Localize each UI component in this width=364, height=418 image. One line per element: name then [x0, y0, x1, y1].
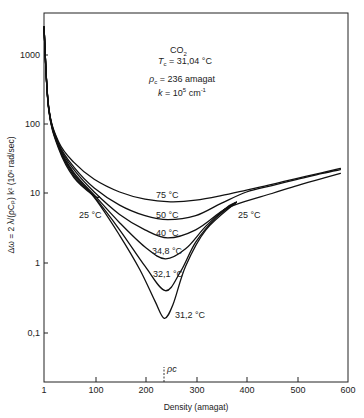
- curve-label-34-8: 34,8 °C: [152, 246, 183, 256]
- x-tick-label: 1: [41, 385, 46, 395]
- rhoc-label: ρc = 236 amagat: [148, 74, 215, 85]
- curve-32-1-c: [44, 27, 236, 291]
- curve-labels: 75 °C 50 °C 40 °C 34,8 °C 32,1 °C 31,2 °…: [79, 190, 261, 320]
- chart: 1000 100 10 1 0,1 1 100 200 300 400 500 …: [0, 0, 364, 418]
- curve-label-75: 75 °C: [156, 190, 179, 200]
- x-tick-label: 200: [138, 385, 153, 395]
- x-tick-label: 300: [189, 385, 204, 395]
- plot-frame: [44, 13, 348, 382]
- x-tick-label: 100: [88, 385, 103, 395]
- curve-label-32-1: 32,1 °C: [153, 269, 184, 279]
- x-axis-title: Density (amagat): [164, 402, 229, 412]
- x-tick-label: 400: [239, 385, 254, 395]
- curve-label-40: 40 °C: [156, 228, 179, 238]
- y-tick-label: 1: [35, 258, 40, 268]
- y-tick-label: 10: [30, 188, 40, 198]
- info-block: CO2 Tc = 31,04 °C ρc = 236 amagat k = 10…: [148, 45, 215, 98]
- curve-label-31-2: 31,2 °C: [175, 310, 206, 320]
- y-tick-label: 100: [25, 119, 40, 129]
- k-label: k = 105 cm-1: [158, 87, 207, 98]
- curve-label-25-left: 25 °C: [79, 210, 102, 220]
- x-tick-label: 500: [290, 385, 305, 395]
- substance-label: CO2: [170, 45, 188, 57]
- y-tick-label: 1000: [20, 50, 40, 60]
- curve-75-c: [44, 27, 340, 202]
- curves: [44, 27, 340, 319]
- tc-label: Tc = 31,04 °C: [158, 56, 212, 67]
- x-tick-label: 600: [340, 385, 355, 395]
- curve-label-50: 50 °C: [156, 210, 179, 220]
- y-axis-title: Δω = 2 λ/(ρCₚ) k² (10⁶ rad/sec): [6, 136, 16, 253]
- curve-label-25-right: 25 °C: [238, 210, 261, 220]
- rhoc-marker-label: ρc: [166, 364, 177, 374]
- y-tick-label: 0,1: [27, 328, 40, 338]
